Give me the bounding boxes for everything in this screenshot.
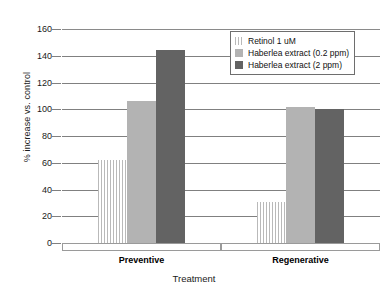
gridline-120: [62, 83, 380, 84]
y-tick-mark-60: [52, 163, 61, 164]
legend-swatch-icon-2: [235, 61, 243, 69]
y-tick-mark-120: [52, 83, 61, 84]
legend-label-1: Haberlea extract (0.2 ppm): [248, 48, 349, 59]
y-tick-label-20: 20: [4, 211, 52, 221]
legend-swatch-icon-1: [235, 49, 243, 57]
y-tick-label-0: 0: [4, 238, 52, 248]
y-tick-label-140: 140: [4, 51, 52, 61]
y-tick-mark-140: [52, 56, 61, 57]
bar-regenerative-series-1: [286, 107, 315, 243]
y-axis-ticks: 160140120100806040200: [0, 0, 52, 295]
y-tick-label-80: 80: [4, 131, 52, 141]
y-tick-mark-0: [52, 243, 61, 244]
bar-regenerative-series-2: [315, 109, 344, 243]
y-tick-label-120: 120: [4, 78, 52, 88]
legend-item-1: Haberlea extract (0.2 ppm): [235, 47, 349, 59]
bar-preventive-series-2: [156, 50, 185, 243]
category-bracket-preventive: [62, 244, 221, 251]
y-tick-label-100: 100: [4, 104, 52, 114]
y-tick-label-60: 60: [4, 158, 52, 168]
y-tick-label-40: 40: [4, 185, 52, 195]
category-axis: [62, 244, 380, 254]
bar-preventive-series-1: [127, 101, 156, 243]
category-label-regenerative: Regenerative: [221, 255, 380, 265]
category-bracket-regenerative: [221, 244, 380, 251]
y-tick-mark-160: [52, 29, 61, 30]
legend-swatch-icon-0: [235, 37, 243, 45]
bar-preventive-series-0: [98, 160, 127, 243]
y-tick-label-160: 160: [4, 24, 52, 34]
legend-item-0: Retinol 1 uM: [235, 35, 349, 47]
legend-label-0: Retinol 1 uM: [248, 36, 296, 47]
y-tick-mark-20: [52, 216, 61, 217]
x-axis-title: Treatment: [0, 273, 388, 284]
legend-label-2: Haberlea extract (2 ppm): [248, 60, 342, 71]
y-tick-mark-100: [52, 109, 61, 110]
chart-legend: Retinol 1 uMHaberlea extract (0.2 ppm)Ha…: [230, 31, 355, 75]
legend-item-2: Haberlea extract (2 ppm): [235, 59, 349, 71]
bar-regenerative-series-0: [257, 202, 286, 243]
bar-chart: % increase vs. control 16014012010080604…: [0, 0, 388, 295]
y-tick-mark-40: [52, 190, 61, 191]
category-label-preventive: Preventive: [62, 255, 221, 265]
gridline-160: [62, 29, 380, 30]
y-tick-mark-80: [52, 136, 61, 137]
